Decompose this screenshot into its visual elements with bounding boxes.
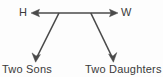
node-label-sons: Two Sons [2,64,52,75]
node-label-daughters: Two Daughters [85,64,162,75]
family-relationship-diagram: H W Two Sons Two Daughters [0,0,163,77]
node-label-wife: W [121,7,131,18]
node-label-husband: H [19,7,27,18]
parents-to-daughters-line [91,13,112,57]
arrowhead-toward-husband-icon [31,9,40,16]
arrowhead-toward-wife-icon [110,9,119,16]
parents-to-sons-line [37,13,59,57]
